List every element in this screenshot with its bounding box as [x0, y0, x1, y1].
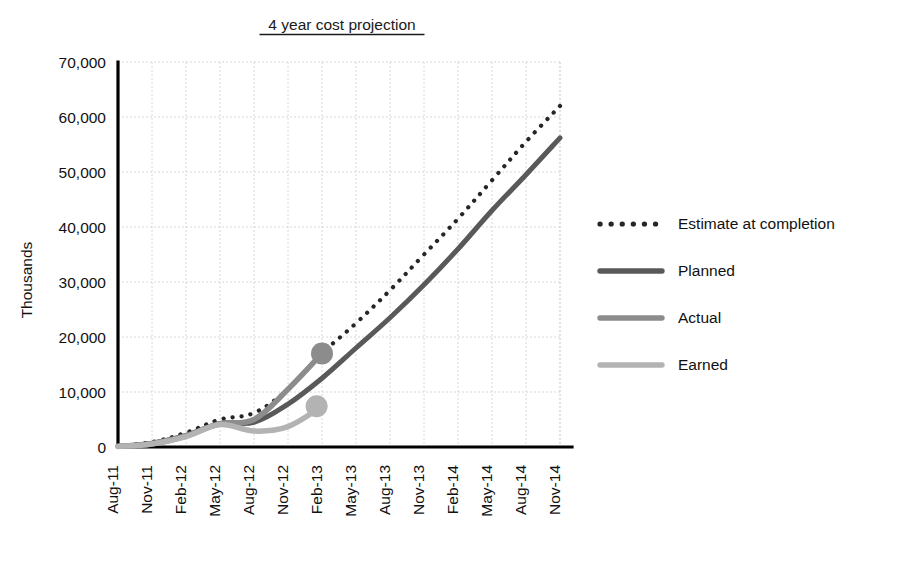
- series-end-marker: [306, 395, 328, 417]
- x-tick-label: May-12: [206, 465, 223, 517]
- legend-label: Earned: [678, 356, 728, 373]
- x-tick-label: Nov-12: [274, 465, 291, 515]
- x-tick-label: Aug-13: [376, 465, 393, 515]
- y-tick-label: 20,000: [59, 329, 107, 346]
- x-tick-label: Feb-13: [308, 465, 325, 514]
- y-tick-label: 40,000: [59, 219, 107, 236]
- series-end-marker: [311, 343, 333, 365]
- x-tick-label: Feb-12: [172, 465, 189, 514]
- x-tick-label: Aug-12: [240, 465, 257, 515]
- y-tick-label: 70,000: [59, 54, 107, 71]
- legend-label: Actual: [678, 309, 721, 326]
- x-tick-label: May-14: [478, 465, 495, 517]
- x-tick-label: May-13: [342, 465, 359, 517]
- legend-label: Estimate at completion: [678, 215, 835, 232]
- y-tick-label: 10,000: [59, 384, 107, 401]
- x-tick-label: Nov-13: [410, 465, 427, 515]
- x-tick-label: Nov-11: [138, 465, 155, 514]
- y-tick-label: 60,000: [59, 109, 107, 126]
- legend-label: Planned: [678, 262, 735, 279]
- y-axis-label: Thousands: [18, 241, 35, 318]
- x-tick-label: Aug-14: [512, 465, 529, 515]
- x-tick-label: Nov-14: [546, 465, 563, 515]
- page-title: 4 year cost projection: [268, 16, 415, 33]
- y-tick-label: 30,000: [59, 274, 107, 291]
- x-tick-label: Aug-11: [104, 465, 121, 514]
- x-tick-label: Feb-14: [444, 465, 461, 514]
- cost-projection-chart: 4 year cost projection 010,00020,00030,0…: [0, 0, 907, 562]
- y-tick-label: 0: [97, 439, 106, 456]
- y-tick-label: 50,000: [59, 164, 107, 181]
